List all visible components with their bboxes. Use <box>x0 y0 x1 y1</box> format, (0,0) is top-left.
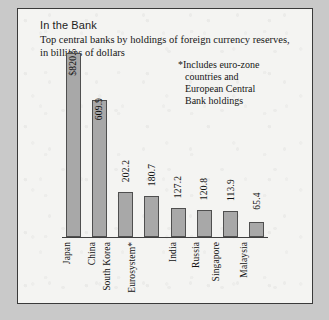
bar-value-label: 127.2 <box>173 176 183 198</box>
category-label: South Korea <box>101 242 111 291</box>
category-label: Eurosystem* <box>126 242 136 293</box>
bar-slot: 65.4 <box>246 53 268 237</box>
bar: 65.4 <box>249 222 264 237</box>
category-label: Russia <box>191 242 201 268</box>
bar: 202.2 <box>118 192 133 237</box>
bar-series: $820.5609.9202.2180.7127.2120.8113.965.4 <box>62 53 268 237</box>
bar-slot: 113.9 <box>220 53 242 237</box>
bar-slot: 202.2 <box>115 53 137 237</box>
bar: 180.7 <box>144 196 159 237</box>
tick-slot: Japan <box>62 240 84 304</box>
bar-slot: $820.5 <box>62 53 84 237</box>
bar-slot: 180.7 <box>141 53 163 237</box>
bar: 113.9 <box>223 211 238 237</box>
category-label: China <box>88 242 98 265</box>
bar-value-label: 65.4 <box>252 193 262 210</box>
bar: 127.2 <box>171 208 186 237</box>
bar-slot: 127.2 <box>167 53 189 237</box>
bar-value-label: 113.9 <box>226 179 236 201</box>
plot-area: $820.5609.9202.2180.7127.2120.8113.965.4 <box>62 53 268 237</box>
tick-slot: Malaysia <box>246 240 268 304</box>
bar-value-label: 180.7 <box>147 164 157 186</box>
bar: 120.8 <box>197 210 212 237</box>
page-title: In the Bank <box>40 19 97 31</box>
x-axis-tick-labels: JapanChinaSouth KoreaEurosystem*IndiaRus… <box>62 240 268 304</box>
tick-slot: India <box>167 240 189 304</box>
bar: $820.5 <box>66 53 81 237</box>
category-label: India <box>168 242 178 262</box>
bar-value-label: 202.2 <box>121 159 131 181</box>
x-axis-line <box>62 237 268 238</box>
category-label: Singapore <box>211 242 221 281</box>
chart-panel: In the Bank Top central banks by holding… <box>17 8 313 304</box>
bar: 609.9 <box>92 100 107 237</box>
bar-slot: 609.9 <box>88 53 110 237</box>
bar-value-label: 609.9 <box>94 98 104 120</box>
tick-slot: Eurosystem* <box>141 240 163 304</box>
category-label: Japan <box>62 242 72 264</box>
category-label: Malaysia <box>239 242 249 278</box>
bar-slot: 120.8 <box>193 53 215 237</box>
bar-value-label: 120.8 <box>199 178 209 200</box>
bar-value-label: $820.5 <box>68 48 78 75</box>
